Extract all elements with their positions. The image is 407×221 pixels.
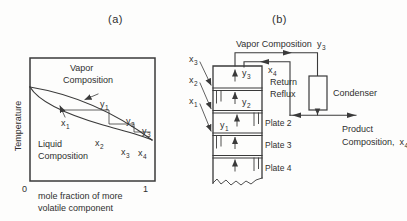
reflux-flow-arrow xyxy=(260,59,269,65)
condenser-outlet-arrow xyxy=(315,109,321,115)
label-b-product-x4: x4 xyxy=(400,138,407,147)
label-a-x2: x2 xyxy=(95,139,104,148)
point-base: x xyxy=(95,138,100,148)
plate-3 xyxy=(213,133,262,136)
point-base: y xyxy=(142,126,147,136)
point-base: y xyxy=(242,68,247,78)
product-flow-arrow xyxy=(347,113,356,119)
panel-b-title: (b) xyxy=(272,14,287,25)
point-base: x xyxy=(61,118,66,128)
point-sub: 4 xyxy=(143,153,147,160)
point-sub: 3 xyxy=(322,44,326,51)
liquid-region-line1: Liquid xyxy=(38,140,62,149)
x-axis-caption-line1: mole fraction of more xyxy=(38,192,123,201)
label-b-col-y2: y2 xyxy=(242,98,251,107)
point-base: x xyxy=(138,148,143,158)
label-a-y3: y3 xyxy=(142,127,151,136)
point-sub: 3 xyxy=(247,73,251,80)
figure-linework xyxy=(0,0,407,221)
label-a-x3: x3 xyxy=(121,148,130,157)
label-a-x1: x1 xyxy=(61,119,70,128)
point-base: x xyxy=(189,54,194,64)
vapor-curve-pointer-arrow xyxy=(85,94,98,100)
x-tick-1: 1 xyxy=(143,185,148,194)
plate-4 xyxy=(213,156,262,159)
stream-text: Composition, xyxy=(342,138,395,147)
point-base: y xyxy=(242,97,247,107)
reflux-branch-arrow xyxy=(292,113,301,119)
point-base: x xyxy=(400,137,405,147)
point-sub: 1 xyxy=(105,104,109,111)
downcomer-plate-1 xyxy=(217,91,222,104)
plate-4-label: Plate 4 xyxy=(265,164,291,173)
vapor-region-line2: Composition xyxy=(63,76,113,85)
point-sub: 2 xyxy=(100,143,104,150)
point-sub: 3 xyxy=(147,131,151,138)
condenser-box xyxy=(309,76,327,110)
label-b-col-y1: y1 xyxy=(220,121,229,130)
point-base: x xyxy=(268,65,273,75)
figure: (a) Temperature Vapor Composition Liquid… xyxy=(0,0,407,221)
downcomer-plate-2 xyxy=(254,113,259,126)
point-base: x xyxy=(189,75,194,85)
vapor-flow-arrow xyxy=(283,50,292,56)
product-label: Product xyxy=(342,125,373,134)
condenser-label: Condenser xyxy=(333,89,377,98)
x2-leader-arrow xyxy=(200,83,211,109)
product-composition-label: Composition, x4 xyxy=(342,138,407,147)
vapor-region-line1: Vapor xyxy=(70,64,93,73)
point-sub: 3 xyxy=(126,152,130,159)
column-torn-edge xyxy=(213,178,262,185)
point-base: y xyxy=(126,116,131,126)
x-tick-0: 0 xyxy=(22,185,27,194)
label-a-y1: y1 xyxy=(100,100,109,109)
label-a-x4: x4 xyxy=(138,149,147,158)
point-sub: 4 xyxy=(273,70,277,77)
downcomer-plate-4 xyxy=(254,158,259,171)
point-base: y xyxy=(317,39,322,49)
stream-text: Vapor Composition xyxy=(236,40,312,49)
point-base: y xyxy=(100,99,105,109)
return-reflux-line1: Return xyxy=(270,78,297,87)
plate-1 xyxy=(213,88,262,91)
point-base: x xyxy=(189,96,194,106)
y-axis-label: Temperature xyxy=(14,101,23,152)
plate-2 xyxy=(213,111,262,114)
point-sub: 3 xyxy=(194,59,198,66)
label-b-x3: x3 xyxy=(189,55,198,64)
plate-3-label: Plate 3 xyxy=(265,141,291,150)
point-base: x xyxy=(121,147,126,157)
label-b-x1: x1 xyxy=(189,97,198,106)
label-a-y2: y2 xyxy=(126,117,135,126)
point-sub: 2 xyxy=(131,121,135,128)
label-b-col-y3: y3 xyxy=(242,69,251,78)
x1-leader-arrow xyxy=(200,104,211,131)
point-sub: 1 xyxy=(194,101,198,108)
point-base: y xyxy=(220,120,225,130)
return-reflux-line2: Reflux xyxy=(270,90,296,99)
label-b-reflux-x4: x4 xyxy=(268,66,277,75)
label-b-x2: x2 xyxy=(189,76,198,85)
x-axis-caption-line2: volatile component xyxy=(38,204,113,213)
x3-leader-arrow xyxy=(200,62,211,85)
label-b-top-y3: y3 xyxy=(317,40,326,49)
point-sub: 2 xyxy=(194,80,198,87)
panel-a-title: (a) xyxy=(108,14,123,25)
point-sub: 2 xyxy=(247,102,251,109)
vapor-composition-stream-label: Vapor Composition y3 xyxy=(236,40,326,49)
plate-2-label: Plate 2 xyxy=(265,119,291,128)
point-sub: 1 xyxy=(66,123,70,130)
point-sub: 1 xyxy=(225,125,229,132)
liquid-region-line2: Composition xyxy=(38,152,88,161)
downcomer-plate-3 xyxy=(217,136,222,149)
